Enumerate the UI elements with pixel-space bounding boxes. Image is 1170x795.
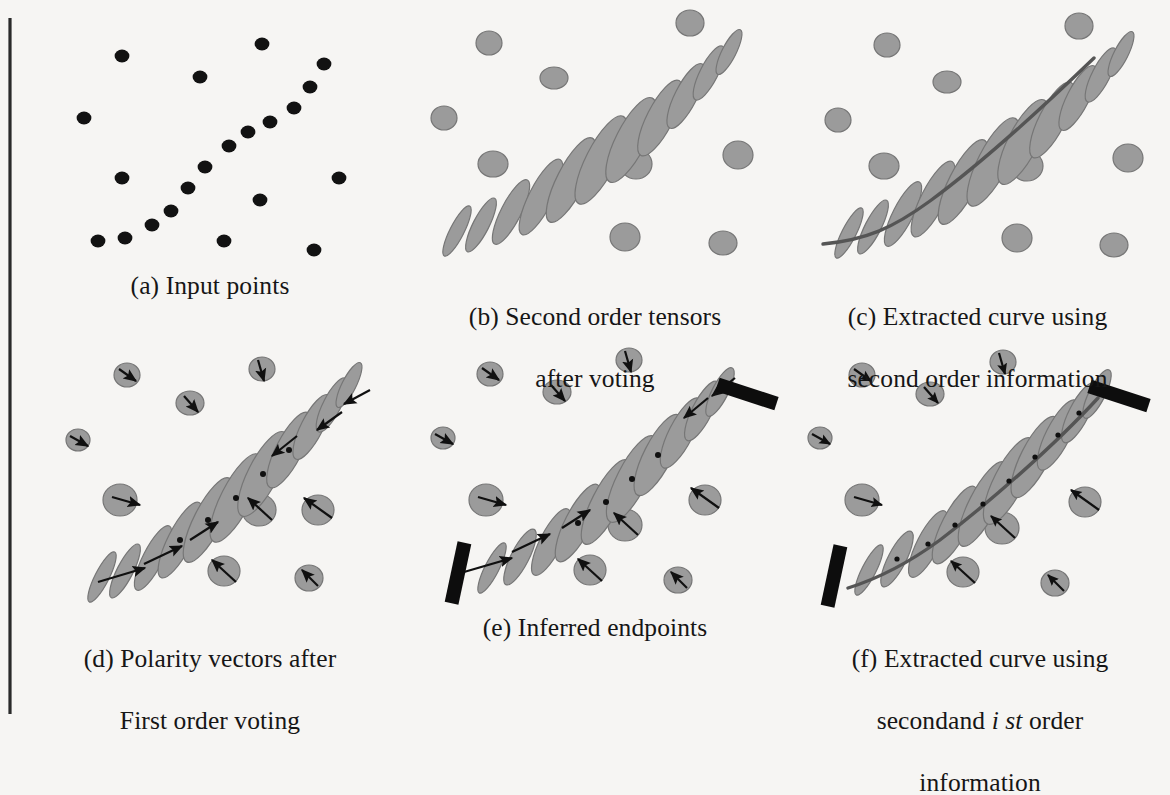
caption-b-line1: (b) Second order tensors	[469, 302, 721, 331]
caption-f-line2-post: order	[1023, 706, 1084, 735]
panel-c-second-order-curve	[825, 13, 1143, 261]
caption-f: (f) Extracted curve using secondand i st…	[790, 612, 1170, 795]
caption-f-line1: (f) Extracted curve using	[852, 644, 1109, 673]
caption-d: (d) Polarity vectors after First order v…	[30, 612, 390, 736]
panel-b-second-order-tensors	[431, 10, 753, 259]
caption-f-line2-italic: i st	[992, 706, 1023, 735]
caption-f-line2-pre: secondand	[877, 706, 992, 735]
caption-c-line2: second order information	[847, 364, 1107, 393]
caption-c-line1: (c) Extracted curve using	[848, 302, 1108, 331]
panel-a-input-points	[77, 38, 347, 257]
caption-f-line3: information	[919, 768, 1041, 795]
caption-d-line1: (d) Polarity vectors after	[84, 644, 337, 673]
caption-d-line2: First order voting	[120, 706, 300, 735]
panel-d-polarity-vectors	[66, 357, 367, 605]
endpoint-bar-lower-left-f	[821, 544, 848, 608]
caption-b: (b) Second order tensors after voting	[395, 270, 795, 394]
caption-c: (c) Extracted curve using second order i…	[785, 270, 1170, 394]
caption-b-line2: after voting	[535, 364, 654, 393]
caption-a: (a) Input points	[60, 270, 360, 301]
caption-e: (e) Inferred endpoints	[400, 612, 790, 643]
endpoint-bar-lower-left	[445, 541, 472, 605]
